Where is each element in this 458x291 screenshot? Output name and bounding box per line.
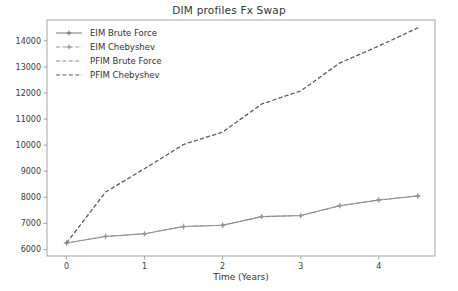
chart-figure: DIM profiles Fx Swap 6000700080009000100… — [0, 0, 458, 291]
y-tick-label: 8000 — [4, 193, 41, 202]
x-tick-label: 4 — [376, 262, 381, 271]
y-tick-label: 12000 — [4, 89, 41, 98]
x-tick-label: 3 — [298, 262, 303, 271]
legend-label: EIM Brute Force — [90, 28, 157, 38]
legend-item-3: PFIM Chebyshev — [54, 68, 162, 82]
legend-line-sample — [54, 55, 84, 67]
y-tick-label: 7000 — [4, 219, 41, 228]
legend-label: PFIM Chebyshev — [90, 70, 160, 80]
y-tick-label: 11000 — [4, 115, 41, 124]
x-tick-label: 2 — [220, 262, 225, 271]
x-tick-label: 1 — [142, 262, 147, 271]
y-tick-label: 10000 — [4, 141, 41, 150]
series-0 — [63, 193, 421, 246]
y-tick-label: 14000 — [4, 36, 41, 45]
legend-line-sample — [54, 27, 84, 39]
legend-line-sample — [54, 41, 84, 53]
y-tick-label: 6000 — [4, 245, 41, 254]
chart-legend: EIM Brute ForceEIM ChebyshevPFIM Brute F… — [52, 24, 166, 84]
series-1 — [63, 193, 421, 246]
legend-item-0: EIM Brute Force — [54, 26, 162, 40]
legend-label: PFIM Brute Force — [90, 56, 162, 66]
y-tick-label: 13000 — [4, 62, 41, 71]
legend-line-sample — [54, 69, 84, 81]
x-tick-label: 0 — [64, 262, 69, 271]
legend-item-1: EIM Chebyshev — [54, 40, 162, 54]
y-tick-label: 9000 — [4, 167, 41, 176]
x-axis-label: Time (Years) — [47, 272, 435, 282]
legend-label: EIM Chebyshev — [90, 42, 155, 52]
legend-item-2: PFIM Brute Force — [54, 54, 162, 68]
